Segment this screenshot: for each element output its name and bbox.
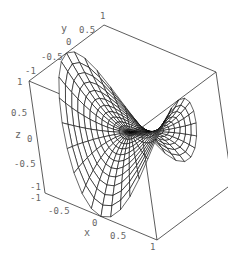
y-axis-label: y (61, 23, 67, 34)
z-tick-label: -1 (30, 182, 41, 192)
y-tick-label: 1 (100, 11, 105, 21)
x-axis-label: x (84, 227, 90, 238)
x-tick-label: 0 (92, 218, 97, 228)
x-tick-label: 0.5 (110, 231, 126, 241)
x-tick-label: -1 (30, 193, 41, 203)
wireframe-surface (59, 52, 197, 217)
y-tick-label: -0.5 (41, 52, 63, 62)
surface-plot: -1-0.500.51-1-0.500.5110.50-0.5-1 x y z (0, 0, 228, 262)
y-tick-label: -1 (25, 66, 36, 76)
y-tick-label: 0 (66, 37, 71, 47)
z-tick-label: 0 (27, 134, 32, 144)
y-tick-label: 0.5 (79, 25, 95, 35)
z-tick-label: 0.5 (11, 108, 27, 118)
x-tick-label: 1 (150, 242, 155, 252)
z-tick-label: -0.5 (14, 159, 36, 169)
z-tick-label: 1 (17, 77, 22, 87)
z-axis-label: z (15, 129, 21, 140)
x-tick-label: -0.5 (48, 206, 70, 216)
